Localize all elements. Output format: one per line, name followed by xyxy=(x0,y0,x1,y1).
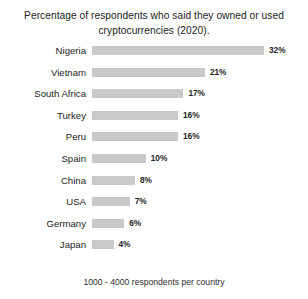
bar-row: Germany6% xyxy=(0,215,308,237)
bar xyxy=(92,154,146,163)
bar-row: Turkey16% xyxy=(0,107,308,129)
bar-category-label: USA xyxy=(0,196,86,208)
bar-category-label: Peru xyxy=(0,131,86,143)
bar xyxy=(92,68,205,77)
bar-category-label: Turkey xyxy=(0,110,86,122)
bar-category-label: Nigeria xyxy=(0,45,86,57)
bar-row: Peru16% xyxy=(0,128,308,150)
bar xyxy=(92,132,178,141)
bar-category-label: South Africa xyxy=(0,88,86,100)
bar-fill xyxy=(92,240,114,249)
bar-category-label: Vietnam xyxy=(0,67,86,79)
bar-row: China8% xyxy=(0,172,308,194)
bar xyxy=(92,111,178,120)
chart-plot-area: Nigeria32%Vietnam21%South Africa17%Turke… xyxy=(0,42,308,258)
bar-category-label: China xyxy=(0,175,86,187)
bar-fill xyxy=(92,176,135,185)
bar-value-label: 17% xyxy=(188,88,205,99)
bar-fill xyxy=(92,154,146,163)
bar-row: Vietnam21% xyxy=(0,64,308,86)
bar-value-label: 7% xyxy=(135,196,147,207)
bar xyxy=(92,176,135,185)
bar-row: South Africa17% xyxy=(0,85,308,107)
bar-value-label: 21% xyxy=(210,67,227,78)
bar-value-label: 16% xyxy=(183,110,200,121)
bar-fill xyxy=(92,111,178,120)
chart-footnote: 1000 - 4000 respondents per country xyxy=(14,277,294,288)
bar-chart: Percentage of respondents who said they … xyxy=(0,0,308,299)
bar-value-label: 10% xyxy=(151,153,168,164)
bar-row: USA7% xyxy=(0,193,308,215)
bar-value-label: 16% xyxy=(183,131,200,142)
bar-row: Spain10% xyxy=(0,150,308,172)
bar xyxy=(92,219,124,228)
bar-category-label: Spain xyxy=(0,153,86,165)
bar-category-label: Germany xyxy=(0,218,86,230)
bar-row: Nigeria32% xyxy=(0,42,308,64)
bar xyxy=(92,89,183,98)
bar-fill xyxy=(92,68,205,77)
bar-fill xyxy=(92,46,264,55)
bar-value-label: 8% xyxy=(140,175,152,186)
bar-fill xyxy=(92,132,178,141)
bar-value-label: 6% xyxy=(129,218,141,229)
bar xyxy=(92,197,130,206)
bar-category-label: Japan xyxy=(0,239,86,251)
bar-fill xyxy=(92,219,124,228)
bar xyxy=(92,240,114,249)
bar-fill xyxy=(92,89,183,98)
bar-row: Japan4% xyxy=(0,236,308,258)
bar-value-label: 32% xyxy=(269,45,286,56)
bar-fill xyxy=(92,197,130,206)
bar-value-label: 4% xyxy=(119,239,131,250)
bar xyxy=(92,46,264,55)
chart-title: Percentage of respondents who said they … xyxy=(14,8,294,38)
